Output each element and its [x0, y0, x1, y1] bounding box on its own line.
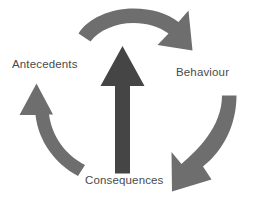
cycle-arrows-graphic [0, 0, 253, 203]
label-behaviour: Behaviour [176, 66, 229, 79]
consequences-to-antecedents-arrow [20, 84, 86, 177]
label-consequences: Consequences [85, 174, 164, 187]
antecedents-to-behaviour-arrow [79, 9, 193, 51]
center-upward-arrow [101, 46, 145, 174]
behaviour-to-consequences-arrow [172, 96, 237, 192]
abc-cycle-diagram: Antecedents Behaviour Consequences [0, 0, 253, 203]
label-antecedents: Antecedents [12, 58, 78, 71]
